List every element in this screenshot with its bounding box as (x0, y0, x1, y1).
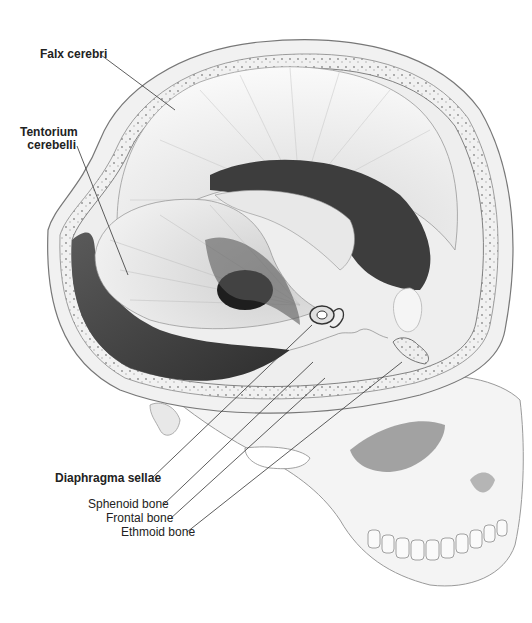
label-ethmoid-bone: Ethmoid bone (121, 526, 195, 539)
label-sphenoid-bone: Sphenoid bone (88, 498, 169, 511)
label-falx-cerebri: Falx cerebri (40, 48, 107, 61)
anatomical-illustration (0, 0, 532, 623)
label-diaphragma-sellae: Diaphragma sellae (55, 472, 161, 485)
crista-galli (393, 288, 421, 332)
label-frontal-bone: Frontal bone (106, 512, 173, 525)
label-tentorium-line2: cerebelli (20, 139, 76, 152)
label-tentorium-cerebelli: Tentorium cerebelli (20, 126, 76, 152)
